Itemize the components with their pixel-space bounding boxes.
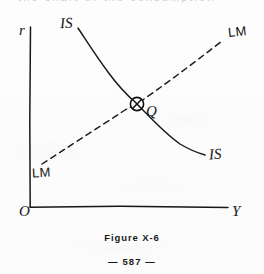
equilibrium-point-marker — [130, 97, 143, 110]
y-axis-label: r — [19, 22, 25, 39]
figure-caption: Figure X-6 — [0, 232, 264, 243]
origin-label: O — [19, 203, 30, 220]
figure-page: the chart of the consumption r IS LM Q I… — [0, 0, 264, 274]
x-axis-line — [30, 206, 228, 207]
is-curve-label-bottom: IS — [208, 146, 222, 164]
is-curve-label-top: IS — [60, 15, 73, 33]
equilibrium-point-label: Q — [146, 103, 157, 120]
lm-curve-label-bottom: LM — [32, 165, 51, 181]
is-curve — [78, 28, 205, 155]
page-number: — 587 — — [0, 256, 264, 267]
lm-curve-label-top: LM — [227, 23, 247, 40]
y-axis-line — [30, 27, 31, 207]
x-axis-label: Y — [232, 203, 240, 220]
